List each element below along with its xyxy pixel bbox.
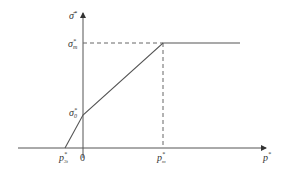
- p-3t-label: p*3t: [58, 151, 69, 164]
- origin-label: 0: [80, 152, 85, 163]
- stress-diagram: σ̄* σ*m σ*0 p*3t 0 p*m p*: [0, 0, 286, 171]
- sigma-m-label: σ*m: [68, 38, 78, 50]
- y-axis-label: σ̄*: [69, 10, 77, 21]
- stress-curve: [65, 43, 240, 148]
- sigma-0-label: σ*0: [69, 107, 77, 119]
- p-m-label: p*m: [156, 151, 166, 164]
- x-axis-label: p*: [262, 151, 271, 163]
